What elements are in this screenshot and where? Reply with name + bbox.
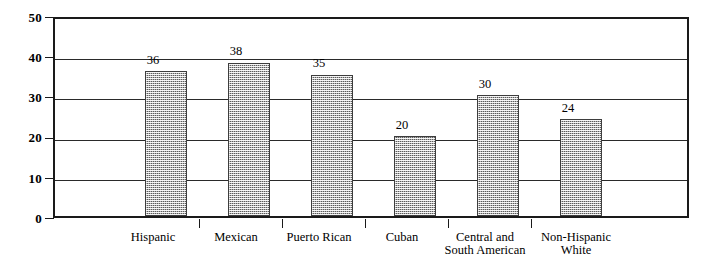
plot-area (53, 17, 689, 218)
x-axis-category-line: Mexican (214, 230, 258, 244)
bar-value-label: 24 (538, 102, 598, 115)
bar-hispanic (145, 71, 187, 216)
bar-non-hispanic-white (560, 119, 602, 216)
y-axis-tick-mark (45, 218, 54, 219)
bar-value-label: 30 (455, 78, 515, 91)
x-axis-tick-mark (365, 219, 366, 228)
y-axis-tick-label: 50 (2, 11, 42, 24)
bar-central-south-american (477, 95, 519, 216)
y-axis-tick-label: 10 (2, 172, 42, 185)
bar-chart: 50 40 30 20 10 0 36 38 35 20 30 24 Hispa… (0, 0, 702, 261)
x-axis-category-line: Central and (456, 230, 514, 244)
x-axis-tick-mark (282, 219, 283, 228)
x-axis-category-line: White (526, 244, 626, 257)
bar-cuban (394, 136, 436, 216)
y-axis-tick-label: 0 (2, 212, 42, 225)
x-axis-category-label-puerto-rican: Puerto Rican (279, 231, 359, 244)
x-axis-category-label-non-hispanic-white: Non-Hispanic White (526, 231, 626, 257)
bar-value-label: 20 (372, 119, 432, 132)
bar-mexican (228, 63, 270, 216)
bar-value-label: 38 (206, 45, 266, 58)
x-axis-category-label-cuban: Cuban (362, 231, 442, 244)
x-axis-category-label-central-south-american: Central and South American (435, 231, 535, 257)
y-axis-tick-label: 20 (2, 131, 42, 144)
x-axis-tick-mark (531, 219, 532, 228)
x-axis-category-line: Cuban (386, 230, 419, 244)
x-axis-category-label-hispanic: Hispanic (113, 231, 193, 244)
bar-value-label: 35 (289, 57, 349, 70)
x-axis-category-line: Non-Hispanic (541, 230, 611, 244)
x-axis-tick-mark (199, 219, 200, 228)
x-axis-category-label-mexican: Mexican (196, 231, 276, 244)
x-axis-category-line: Hispanic (131, 230, 175, 244)
y-axis-tick-label: 30 (2, 91, 42, 104)
y-axis-tick-label: 40 (2, 51, 42, 64)
bar-value-label: 36 (123, 54, 183, 67)
x-axis-tick-mark (448, 219, 449, 228)
bar-puerto-rican (311, 75, 353, 216)
x-axis-category-line: Puerto Rican (287, 230, 352, 244)
x-axis-category-line: South American (435, 244, 535, 257)
